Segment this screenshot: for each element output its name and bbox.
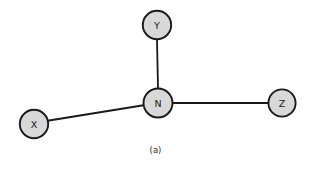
node-x-label: X <box>31 119 38 130</box>
node-n[interactable]: N <box>144 89 173 118</box>
node-z-label: Z <box>279 98 286 109</box>
edge-y-n <box>157 40 158 88</box>
node-x[interactable]: X <box>20 110 48 138</box>
edge-x-n <box>46 105 145 121</box>
node-y-label: Y <box>153 20 160 31</box>
node-n-label: N <box>154 98 161 109</box>
figure-panel: Y N X Z (a) <box>0 0 311 173</box>
node-y[interactable]: Y <box>143 11 171 39</box>
node-z[interactable]: Z <box>268 89 295 116</box>
figure-caption: (a) <box>0 145 311 155</box>
